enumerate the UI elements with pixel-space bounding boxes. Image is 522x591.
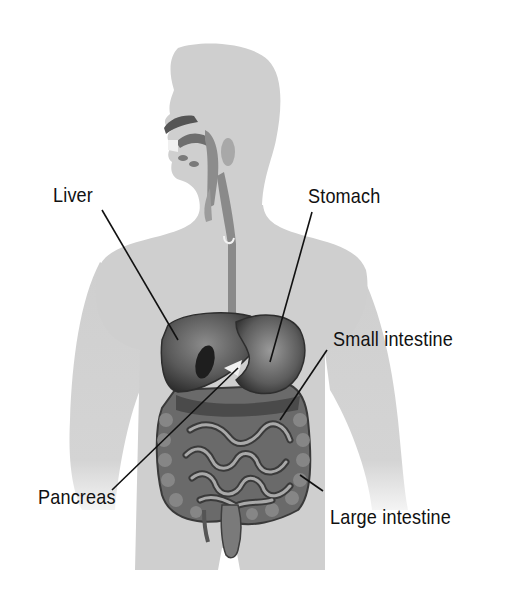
label-small-intestine: Small intestine [333,328,453,349]
digestive-system-diagram: Liver Stomach Small intestine Pancreas L… [0,0,522,591]
label-stomach: Stomach [308,185,380,206]
label-large-intestine: Large intestine [330,506,451,527]
label-pancreas: Pancreas [38,486,116,507]
label-liver: Liver [53,184,93,205]
